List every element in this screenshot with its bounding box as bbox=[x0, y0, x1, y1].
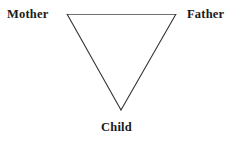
node-label-mother: Mother bbox=[7, 8, 48, 21]
triangle-edge-father-child bbox=[121, 15, 176, 111]
node-label-father: Father bbox=[187, 8, 224, 21]
triangle-edge-mother-child bbox=[67, 15, 121, 111]
node-label-child: Child bbox=[101, 121, 132, 134]
family-triangle-figure: Mother Father Child bbox=[0, 0, 241, 142]
